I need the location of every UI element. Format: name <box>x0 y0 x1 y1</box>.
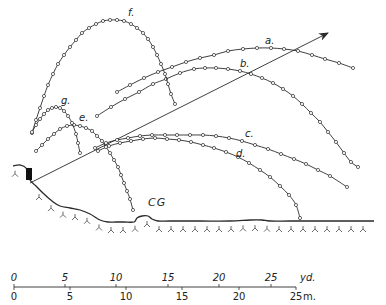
trajectory-point-icon <box>214 66 217 69</box>
trajectory-label-d: d. <box>236 148 246 159</box>
trajectory-point-icon <box>173 102 176 105</box>
trajectory-point-icon <box>192 67 195 70</box>
trajectory-point-icon <box>84 126 87 129</box>
trajectory-point-icon <box>50 106 53 109</box>
trajectory-point-icon <box>109 105 112 108</box>
trajectory-point-icon <box>292 157 295 160</box>
trajectory-point-icon <box>112 158 115 161</box>
meter-tick-label: 20 <box>233 291 246 302</box>
trajectory-point-icon <box>34 118 37 121</box>
trajectory-point-icon <box>151 82 154 85</box>
trajectory-point-icon <box>126 136 129 139</box>
grass-icon <box>312 226 318 232</box>
trajectory-point-icon <box>226 67 229 70</box>
grass-icon <box>216 226 222 232</box>
grass-icon <box>48 205 54 211</box>
trajectory-point-icon <box>269 46 272 49</box>
trajectory-point-icon <box>40 143 43 146</box>
trajectory-point-icon <box>34 123 37 126</box>
trajectory-point-icon <box>177 138 180 141</box>
trajectory-point-icon <box>51 72 54 75</box>
trajectory-point-icon <box>150 133 153 136</box>
trajectory-point-icon <box>224 150 227 153</box>
yard-tick-label: 20 <box>213 272 226 283</box>
trajectory-point-icon <box>54 105 57 108</box>
trajectory-label-g: g. <box>61 95 71 106</box>
grass-icon <box>192 226 198 232</box>
launch-rock-block <box>26 168 32 180</box>
grass-icon <box>240 225 246 231</box>
trajectory-point-icon <box>146 37 149 40</box>
yard-tick-label: 15 <box>162 272 175 283</box>
trajectory-point-icon <box>318 120 321 123</box>
trajectory-point-icon <box>46 83 49 86</box>
trajectory-point-icon <box>115 18 118 21</box>
trajectory-point-icon <box>122 19 125 22</box>
trajectory-point-icon <box>356 165 359 168</box>
scale-bar: 05101520250510152025yd.m. <box>11 272 316 302</box>
trajectory-point-icon <box>122 181 125 184</box>
trajectory-point-icon <box>258 168 261 171</box>
trajectory-point-icon <box>226 49 229 52</box>
trajectory-d <box>96 136 301 219</box>
trajectory-point-icon <box>255 46 258 49</box>
trajectory-point-icon <box>141 137 144 140</box>
trajectory-point-icon <box>141 31 144 34</box>
meter-tick-label: 0 <box>11 291 17 302</box>
trajectory-point-icon <box>323 57 326 60</box>
trajectory-point-icon <box>342 151 345 154</box>
trajectory-point-icon <box>294 203 297 206</box>
trajectory-point-icon <box>118 141 121 144</box>
trajectory-point-icon <box>123 97 126 100</box>
trajectory-point-icon <box>309 111 312 114</box>
grass-icon <box>324 226 330 232</box>
grass-icon <box>360 226 366 232</box>
trajectory-point-icon <box>201 143 204 146</box>
trajectory-point-icon <box>266 147 269 150</box>
trajectory-point-icon <box>119 173 122 176</box>
trajectory-point-icon <box>212 53 215 56</box>
trajectory-point-icon <box>128 83 131 86</box>
trajectory-point-icon <box>287 193 290 196</box>
trajectory-point-icon <box>240 139 243 142</box>
trajectory-point-icon <box>334 140 337 143</box>
grass-icon <box>252 225 258 231</box>
grass-icon <box>60 212 66 218</box>
trajectory-point-icon <box>151 45 154 48</box>
trajectory-point-icon <box>166 82 169 85</box>
trajectory-label-a: a. <box>265 35 274 46</box>
trajectory-point-icon <box>328 174 331 177</box>
trajectory-point-icon <box>316 168 319 171</box>
trajectory-point-icon <box>156 70 159 73</box>
trajectory-point-icon <box>198 56 201 59</box>
trajectory-point-icon <box>300 102 303 105</box>
trajectory-point-icon <box>260 76 263 79</box>
yard-tick-label: 5 <box>62 272 68 283</box>
trajectory-point-icon <box>169 92 172 95</box>
grass-icon <box>12 171 18 177</box>
trajectory-point-icon <box>46 137 49 140</box>
trajectory-point-icon <box>129 139 132 142</box>
grass-icon <box>132 226 138 232</box>
yard-tick-label: 25 <box>265 272 278 283</box>
trajectory-point-icon <box>108 18 111 21</box>
grass-icon <box>36 194 42 200</box>
trajectory-point-icon <box>184 60 187 63</box>
trajectory-point-icon <box>65 124 68 127</box>
trajectory-point-icon <box>74 132 77 135</box>
trajectory-point-icon <box>271 81 274 84</box>
grass-icon <box>168 226 174 232</box>
trajectory-point-icon <box>163 72 166 75</box>
grass-icon <box>264 226 270 232</box>
trajectory-point-icon <box>135 26 138 29</box>
grass-icon <box>156 226 162 232</box>
trajectory-point-icon <box>310 53 313 56</box>
trajectory-point-icon <box>351 66 354 69</box>
trajectory-point-icon <box>165 137 168 140</box>
trajectory-point-icon <box>304 162 307 165</box>
trajectory-point-icon <box>95 114 98 117</box>
trajectory-point-icon <box>153 136 156 139</box>
grass-icon <box>72 214 78 220</box>
trajectory-point-icon <box>68 45 71 48</box>
yard-tick-label: 10 <box>110 272 123 283</box>
